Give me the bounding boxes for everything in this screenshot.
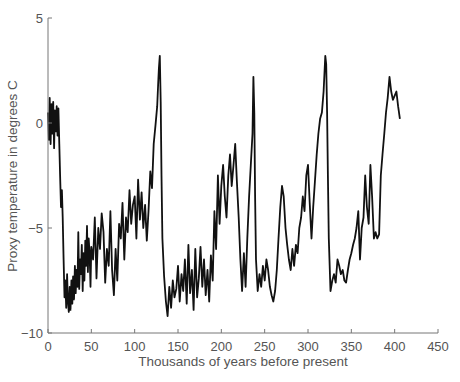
y-tick-label: −10 (21, 326, 43, 341)
chart: 050100150200250300350400450 −10−505 Thou… (0, 0, 460, 382)
x-tick-label: 0 (44, 339, 51, 354)
temperature-line (48, 56, 400, 316)
x-tick-label: 100 (124, 339, 146, 354)
y-tick-label: −5 (28, 221, 43, 236)
x-tick-label: 450 (427, 339, 449, 354)
y-axis-title: Proxy temperature in degrees C (5, 80, 20, 272)
x-tick-label: 150 (167, 339, 189, 354)
y-ticks: −10−505 (21, 11, 52, 341)
x-tick-label: 250 (254, 339, 276, 354)
axes: 050100150200250300350400450 −10−505 (21, 11, 449, 354)
x-tick-label: 300 (297, 339, 319, 354)
y-tick-label: 0 (36, 116, 43, 131)
y-tick-label: 5 (36, 11, 43, 26)
x-tick-label: 200 (210, 339, 232, 354)
x-tick-label: 350 (340, 339, 362, 354)
x-axis-title: Thousands of years before present (138, 354, 348, 369)
x-tick-label: 50 (84, 339, 98, 354)
plot-area (48, 56, 400, 316)
x-tick-label: 400 (384, 339, 406, 354)
